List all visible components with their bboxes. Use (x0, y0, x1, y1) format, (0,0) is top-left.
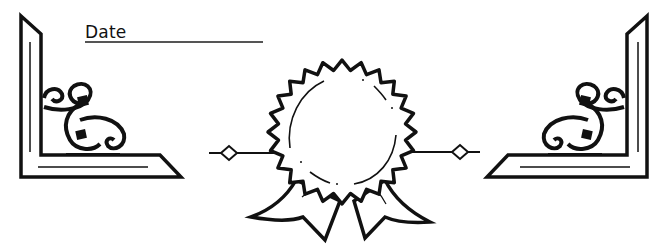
left-diamond-rule-icon (209, 146, 275, 160)
right-corner-ornament-icon (487, 16, 647, 177)
right-diamond-rule-icon (412, 145, 480, 159)
left-corner-ornament-icon (21, 16, 181, 177)
award-rosette-icon (268, 60, 416, 204)
